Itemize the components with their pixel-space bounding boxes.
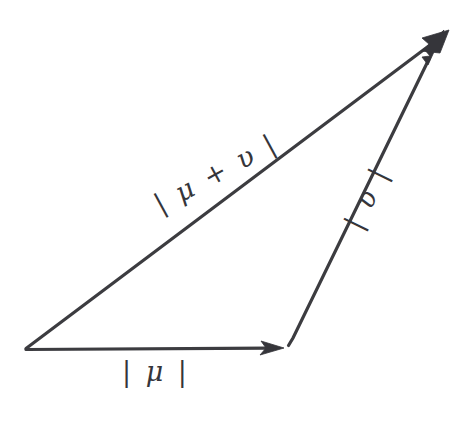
- vector-mu: [26, 341, 284, 355]
- label-magnitude-mu: | μ |: [122, 358, 190, 385]
- vector-mu-plus-v-arrowhead: [421, 30, 449, 53]
- vector-mu-shaft: [26, 348, 268, 349]
- vector-diagram: | μ | | μ + υ | | υ |: [0, 0, 462, 422]
- vector-canvas: [0, 0, 462, 422]
